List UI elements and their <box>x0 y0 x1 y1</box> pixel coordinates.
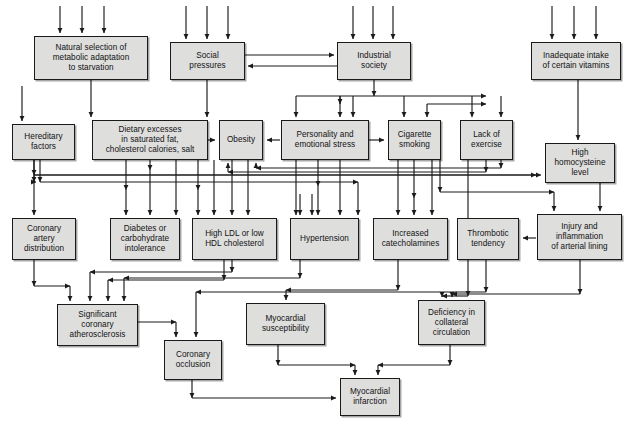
node-label: Hypertension <box>293 234 356 244</box>
node-label: Increased catecholamines <box>376 229 445 249</box>
node-significant-coronary-atherosclerosis[interactable]: Significant coronary atherosclerosis <box>57 304 138 346</box>
node-label: Thrombotic tendency <box>460 229 516 249</box>
node-increased-catecholamines[interactable]: Increased catecholamines <box>373 218 448 260</box>
node-industrial-society[interactable]: Industrial society <box>337 42 411 80</box>
node-natural-selection[interactable]: Natural selection of metabolic adaptatio… <box>34 36 148 80</box>
node-coronary-occlusion[interactable]: Coronary occlusion <box>164 340 222 380</box>
node-lack-of-exercise[interactable]: Lack of exercise <box>460 120 513 160</box>
node-inadequate-vitamins[interactable]: Inadequate intake of certain vitamins <box>531 42 621 80</box>
node-label: Dietary excesses in saturated fat, chole… <box>95 125 205 155</box>
node-deficiency-collateral-circulation[interactable]: Deficiency in collateral circulation <box>418 300 485 345</box>
node-label: Natural selection of metabolic adaptatio… <box>37 43 145 73</box>
node-hereditary-factors[interactable]: Hereditary factors <box>12 124 75 160</box>
node-dietary-excesses[interactable]: Dietary excesses in saturated fat, chole… <box>92 120 208 160</box>
node-label: Significant coronary atherosclerosis <box>60 310 135 340</box>
node-label: Coronary occlusion <box>167 350 219 370</box>
node-obesity[interactable]: Obesity <box>219 120 263 160</box>
node-label: Obesity <box>222 135 260 145</box>
node-label: High LDL or low HDL cholesterol <box>195 229 274 249</box>
node-label: Deficiency in collateral circulation <box>421 308 482 338</box>
node-social-pressures[interactable]: Social pressures <box>170 42 245 80</box>
node-label: Social pressures <box>173 51 242 71</box>
node-label: Inadequate intake of certain vitamins <box>534 51 618 71</box>
node-label: Industrial society <box>340 51 408 71</box>
node-myocardial-infarction[interactable]: Myocardial infarction <box>340 378 400 416</box>
node-label: Myocardial infarction <box>343 387 397 407</box>
node-diabetes-carbohydrate-intolerance[interactable]: Diabetes or carbohydrate intolerance <box>110 218 180 260</box>
node-cigarette-smoking[interactable]: Cigarette smoking <box>388 120 441 160</box>
node-hypertension[interactable]: Hypertension <box>290 218 359 260</box>
node-injury-inflammation-arterial-lining[interactable]: Injury and inflammation of arterial lini… <box>537 214 622 260</box>
node-label: Myocardial susceptibility <box>249 314 322 334</box>
node-thrombotic-tendency[interactable]: Thrombotic tendency <box>457 218 519 260</box>
node-label: High homocysteine level <box>548 148 612 178</box>
node-personality-stress[interactable]: Personality and emotional stress <box>281 120 369 160</box>
node-label: Hereditary factors <box>15 132 72 152</box>
node-high-homocysteine-level[interactable]: High homocysteine level <box>545 143 615 183</box>
node-coronary-artery-distribution[interactable]: Coronary artery distribution <box>12 218 76 260</box>
flowchart-canvas: Natural selection of metabolic adaptatio… <box>0 0 628 421</box>
node-label: Personality and emotional stress <box>284 130 366 150</box>
node-label: Coronary artery distribution <box>15 224 73 254</box>
node-label: Cigarette smoking <box>391 130 438 150</box>
node-label: Diabetes or carbohydrate intolerance <box>113 224 177 254</box>
node-label: Injury and inflammation of arterial lini… <box>540 222 619 252</box>
node-label: Lack of exercise <box>463 130 510 150</box>
node-high-ldl-low-hdl[interactable]: High LDL or low HDL cholesterol <box>192 218 277 260</box>
node-myocardial-susceptibility[interactable]: Myocardial susceptibility <box>246 303 325 345</box>
